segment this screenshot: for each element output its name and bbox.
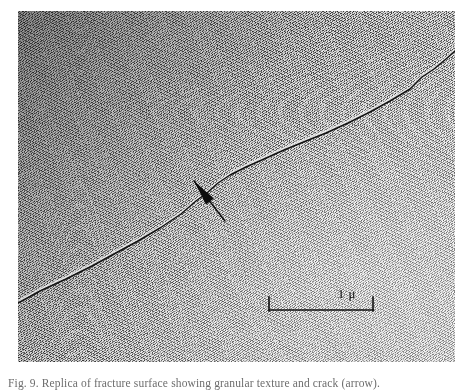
annotation-overlay [18, 11, 455, 362]
scale-bar: 1 μ [250, 289, 374, 315]
pointer-arrow-icon [194, 181, 225, 221]
scale-bar-label: 1 μ [338, 287, 356, 300]
figure-caption: Fig. 9. Replica of fracture surface show… [8, 377, 460, 390]
electron-micrograph-image: 1 μ [18, 11, 455, 362]
